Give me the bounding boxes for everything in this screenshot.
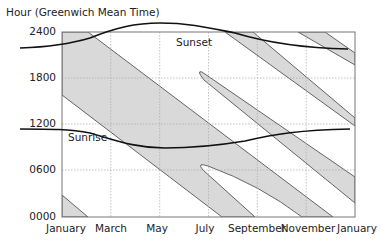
sunrise-label: Sunrise [68,131,107,143]
x-tick-january: January [46,222,86,234]
x-tick-september: September [228,222,286,234]
x-tick-january-end: January [337,222,377,234]
x-tick-may: May [146,222,168,234]
sunset-label: Sunset [176,36,212,48]
y-tick-2400: 2400 [0,25,56,37]
x-tick-march: March [95,222,127,234]
y-tick-0600: 0600 [0,163,56,175]
plot-area [62,32,355,217]
y-tick-1800: 1800 [0,71,56,83]
y-tick-1200: 1200 [0,117,56,129]
x-tick-july: July [196,222,215,234]
y-axis-title: Hour (Greenwich Mean Time) [6,6,160,18]
x-tick-november: November [281,222,336,234]
y-tick-0000: 0000 [0,210,56,222]
